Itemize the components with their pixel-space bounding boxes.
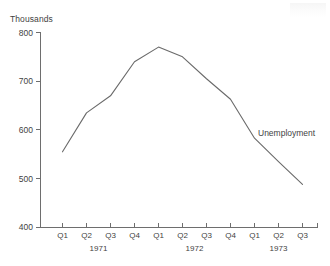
x-tick-label-1: Q2 (81, 231, 92, 240)
x-tick-label-7: Q4 (225, 231, 236, 240)
x-tick-label-5: Q2 (177, 231, 188, 240)
x-tick-label-2: Q3 (105, 231, 116, 240)
y-tick-label-400: 400 (19, 222, 33, 232)
year-label-1973: 1973 (270, 244, 288, 253)
x-tick-label-3: Q4 (129, 231, 140, 240)
y-axis-ticks: 800 700 600 500 400 (19, 28, 41, 233)
x-axis-tick-labels: Q1 Q2 Q3 Q4 Q1 Q2 Q3 Q4 Q1 Q2 Q3 (57, 231, 308, 240)
y-tick-label-800: 800 (19, 28, 33, 38)
x-tick-label-9: Q2 (273, 231, 284, 240)
series-line-unemployment (63, 47, 303, 184)
x-tick-label-8: Q1 (249, 231, 260, 240)
x-tick-label-10: Q3 (297, 231, 308, 240)
x-tick-label-4: Q1 (153, 231, 164, 240)
unemployment-line-chart: Thousands 800 700 600 500 400 (0, 0, 330, 266)
x-tick-label-6: Q3 (201, 231, 212, 240)
y-tick-label-700: 700 (19, 76, 33, 86)
y-tick-label-600: 600 (19, 125, 33, 135)
x-axis-year-labels: 1971 1972 1973 (90, 244, 288, 253)
year-label-1971: 1971 (90, 244, 108, 253)
year-label-1972: 1972 (186, 244, 204, 253)
chart-svg: 800 700 600 500 400 Q1 (0, 0, 330, 266)
x-axis-ticks (63, 223, 318, 228)
x-tick-label-0: Q1 (57, 231, 68, 240)
series-annotation-unemployment: Unemployment (258, 128, 316, 138)
y-tick-label-500: 500 (19, 174, 33, 184)
